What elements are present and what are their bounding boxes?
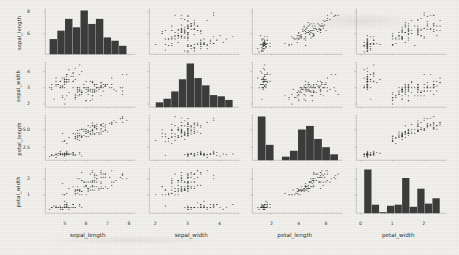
diagonal-histogram-sepal_width (140, 59, 244, 112)
x-tick-label: 4 (214, 221, 226, 226)
diagonal-histogram-petal_width (347, 165, 451, 218)
diagonal-histogram-petal_length (243, 112, 347, 165)
scatter-cell-petal_length-vs-petal_width (243, 165, 347, 218)
x-tick-label: 6 (80, 221, 92, 226)
x-axis-label-sepal_length: sepal_length (36, 232, 140, 242)
scatter-cell-sepal_width-vs-petal_length (140, 112, 244, 165)
x-tick-label: 0 (355, 221, 367, 226)
scatter-cell-petal_length-vs-sepal_width (243, 59, 347, 112)
scatter-cell-sepal_width-vs-petal_width (140, 165, 244, 218)
x-tick-label: 2 (265, 221, 277, 226)
scatter-cell-sepal_width-vs-sepal_length (140, 6, 244, 59)
y-axis-label-petal_width: petal_width (2, 162, 14, 222)
y-tick-label: 2 (17, 101, 30, 106)
x-tick-label: 4 (293, 221, 305, 226)
y-axis-label-sepal_length: sepal_length (2, 3, 14, 63)
x-axis-label-sepal_width: sepal_width (140, 232, 244, 242)
scatter-cell-sepal_length-vs-petal_length (36, 112, 140, 165)
scatter-cell-sepal_length-vs-petal_width (36, 165, 140, 218)
x-axis-label-petal_width: petal_width (347, 232, 451, 242)
scatter-cell-petal_width-vs-sepal_length (347, 6, 451, 59)
x-tick-label: 1 (386, 221, 398, 226)
scatter-cell-petal_width-vs-petal_length (347, 112, 451, 165)
y-axis-label-sepal_width: sepal_width (2, 56, 14, 116)
y-tick-label: 1 (17, 192, 30, 197)
x-axis-label-petal_length: petal_length (243, 232, 347, 242)
x-tick-label: 6 (320, 221, 332, 226)
y-tick-label: 3 (17, 85, 30, 90)
x-tick-label: 2 (149, 221, 161, 226)
y-tick-label: 8 (17, 9, 30, 14)
x-tick-label: 3 (181, 221, 193, 226)
x-tick-label: 2 (418, 221, 430, 226)
pairplot-figure: sepal_length86sepal_width432petal_length… (0, 0, 459, 255)
scatter-cell-petal_width-vs-sepal_width (347, 59, 451, 112)
y-tick-label: 2 (17, 176, 30, 181)
y-axis-label-petal_length: petal_length (2, 109, 14, 169)
x-tick-label: 7 (101, 221, 113, 226)
scatter-matrix-grid (36, 6, 450, 218)
scatter-cell-petal_length-vs-sepal_length (243, 6, 347, 59)
y-tick-label: 5.0 (17, 127, 30, 132)
x-tick-label: 8 (123, 221, 135, 226)
x-tick-label: 5 (59, 221, 71, 226)
y-tick-label: 2.5 (17, 145, 30, 150)
diagonal-histogram-sepal_length (36, 6, 140, 59)
y-tick-label: 6 (17, 31, 30, 36)
y-tick-label: 4 (17, 69, 30, 74)
scatter-cell-sepal_length-vs-sepal_width (36, 59, 140, 112)
